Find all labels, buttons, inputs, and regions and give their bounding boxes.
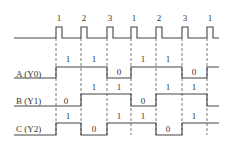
signal-value: 0 bbox=[117, 67, 122, 77]
signal-b-waveform bbox=[14, 94, 219, 106]
signal-value: 1 bbox=[192, 82, 197, 92]
clock-edge-guides bbox=[56, 38, 207, 135]
signal-value: 1 bbox=[66, 54, 71, 64]
signal-label-c: C (Y2) bbox=[16, 124, 41, 134]
pulse-label: 2 bbox=[157, 13, 162, 23]
signal-value: 1 bbox=[141, 111, 146, 121]
signal-c-waveform bbox=[14, 123, 219, 135]
clock-waveform bbox=[14, 27, 219, 38]
signal-value: 0 bbox=[92, 124, 97, 134]
signal-value: 1 bbox=[141, 54, 146, 64]
signal-value: 1 bbox=[92, 82, 97, 92]
signal-value: 1 bbox=[166, 54, 171, 64]
signal-value: 1 bbox=[66, 111, 71, 121]
pulse-label: 3 bbox=[108, 13, 113, 23]
pulse-label: 1 bbox=[57, 13, 62, 23]
timing-diagram: 1 2 3 1 2 3 1 A (Y0) 1 1 0 1 1 0 B (Y1) … bbox=[0, 0, 234, 147]
signal-value: 1 bbox=[117, 111, 122, 121]
signal-value: 1 bbox=[117, 82, 122, 92]
signal-value: 0 bbox=[141, 96, 146, 106]
pulse-label: 3 bbox=[183, 13, 188, 23]
pulse-label: 1 bbox=[208, 13, 213, 23]
signal-label-b: B (Y1) bbox=[16, 96, 41, 106]
pulse-label: 1 bbox=[132, 13, 137, 23]
pulse-label: 2 bbox=[82, 13, 87, 23]
signal-value: 0 bbox=[166, 124, 171, 134]
signal-value: 0 bbox=[64, 96, 69, 106]
signal-value: 1 bbox=[192, 111, 197, 121]
signal-value: 1 bbox=[166, 82, 171, 92]
signal-value: 0 bbox=[192, 67, 197, 77]
signal-value: 1 bbox=[92, 54, 97, 64]
